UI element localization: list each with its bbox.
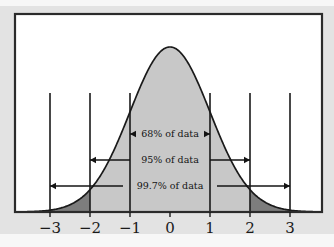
x-tick-label: 1 bbox=[205, 219, 215, 237]
empirical-rule-figure: 68% of data95% of data99.7% of data −3−2… bbox=[0, 0, 334, 247]
x-tick-label: 2 bbox=[245, 219, 255, 237]
x-tick-label: 0 bbox=[165, 219, 175, 237]
x-axis-tick-labels: −3−2−10123 bbox=[39, 219, 295, 237]
annotation-label: 95% of data bbox=[141, 154, 199, 165]
annotation-label: 68% of data bbox=[141, 128, 199, 139]
annotation-label: 99.7% of data bbox=[137, 180, 204, 191]
normal-distribution-chart: 68% of data95% of data99.7% of data −3−2… bbox=[0, 0, 334, 247]
x-tick-label: −3 bbox=[39, 219, 61, 237]
x-tick-label: 3 bbox=[285, 219, 295, 237]
x-tick-label: −1 bbox=[119, 219, 141, 237]
x-tick-label: −2 bbox=[79, 219, 101, 237]
